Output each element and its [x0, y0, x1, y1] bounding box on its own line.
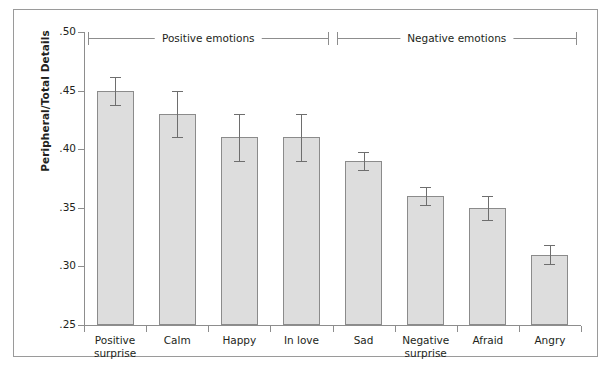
- y-axis-tick: [78, 91, 84, 92]
- x-axis-category-label: Afraid: [457, 334, 519, 347]
- x-axis-category-label: Angry: [519, 334, 581, 347]
- x-axis-category-label: Sad: [333, 334, 395, 347]
- x-axis-category-label-line2: surprise: [395, 347, 457, 360]
- bar: [531, 255, 568, 325]
- error-bar-cap-upper: [172, 91, 183, 92]
- x-axis-tick: [457, 326, 458, 332]
- group-bracket-cap-right: [576, 32, 577, 45]
- error-bar: [488, 196, 489, 219]
- error-bar-cap-lower: [234, 161, 245, 162]
- bar: [283, 137, 320, 325]
- group-bracket-cap-left: [88, 32, 89, 45]
- x-axis-tick: [84, 326, 85, 332]
- error-bar: [115, 77, 116, 105]
- error-bar-cap-lower: [110, 105, 121, 106]
- y-axis-tick: [78, 32, 84, 33]
- x-axis-category-label-line1: In love: [270, 334, 332, 347]
- group-bracket-label: Negative emotions: [400, 30, 513, 46]
- x-axis-category-label-line1: Sad: [333, 334, 395, 347]
- x-axis-category-label-line1: Calm: [146, 334, 208, 347]
- error-bar-cap-upper: [110, 77, 121, 78]
- x-axis-category-label-line2: surprise: [84, 347, 146, 360]
- error-bar: [364, 152, 365, 171]
- x-axis-category-label: In love: [270, 334, 332, 347]
- x-axis-tick: [208, 326, 209, 332]
- bar: [159, 114, 196, 325]
- y-axis-tick-label: .30: [36, 259, 76, 271]
- y-axis-tick: [78, 266, 84, 267]
- y-axis-tick-label: .50: [36, 25, 76, 37]
- x-axis-category-label-line1: Negative: [395, 334, 457, 347]
- error-bar: [301, 114, 302, 161]
- x-axis-tick: [270, 326, 271, 332]
- error-bar-cap-lower: [420, 205, 431, 206]
- error-bar-cap-lower: [358, 170, 369, 171]
- figure-container: Peripheral/Total Details .50.45.40.35.30…: [0, 0, 611, 380]
- x-axis-category-label: Happy: [208, 334, 270, 347]
- error-bar-cap-upper: [234, 114, 245, 115]
- x-axis-tick: [333, 326, 334, 332]
- error-bar-cap-lower: [296, 161, 307, 162]
- error-bar-cap-upper: [482, 196, 493, 197]
- y-axis-tick-label: .40: [36, 142, 76, 154]
- error-bar-cap-lower: [482, 220, 493, 221]
- x-axis-tick: [581, 326, 582, 332]
- error-bar-cap-upper: [358, 152, 369, 153]
- y-axis-tick-label: .25: [36, 318, 76, 330]
- x-axis-category-label-line1: Positive: [84, 334, 146, 347]
- x-axis-category-label: Negativesurprise: [395, 334, 457, 360]
- group-bracket-cap-left: [337, 32, 338, 45]
- bar: [221, 137, 258, 325]
- x-axis-category-label-line1: Happy: [208, 334, 270, 347]
- group-bracket: Negative emotions: [337, 30, 578, 46]
- error-bar-cap-lower: [544, 264, 555, 265]
- error-bar-cap-upper: [544, 245, 555, 246]
- y-axis-line: [84, 32, 85, 326]
- error-bar: [550, 245, 551, 264]
- x-axis-tick: [395, 326, 396, 332]
- group-bracket: Positive emotions: [88, 30, 329, 46]
- x-axis-tick: [519, 326, 520, 332]
- group-bracket-label: Positive emotions: [155, 30, 262, 46]
- group-bracket-cap-right: [328, 32, 329, 45]
- error-bar-cap-upper: [296, 114, 307, 115]
- bar: [97, 91, 134, 325]
- error-bar-cap-lower: [172, 137, 183, 138]
- bar: [469, 208, 506, 325]
- y-axis-tick-label: .35: [36, 201, 76, 213]
- x-axis-category-label: Calm: [146, 334, 208, 347]
- x-axis-tick: [146, 326, 147, 332]
- y-axis-tick-label: .45: [36, 84, 76, 96]
- x-axis-category-label-line1: Afraid: [457, 334, 519, 347]
- y-axis-tick: [78, 208, 84, 209]
- bar: [345, 161, 382, 325]
- x-axis-category-label-line1: Angry: [519, 334, 581, 347]
- error-bar: [177, 91, 178, 138]
- x-axis-category-label: Positivesurprise: [84, 334, 146, 360]
- error-bar-cap-upper: [420, 187, 431, 188]
- bar: [407, 196, 444, 325]
- y-axis-tick: [78, 149, 84, 150]
- error-bar: [426, 187, 427, 206]
- error-bar: [239, 114, 240, 161]
